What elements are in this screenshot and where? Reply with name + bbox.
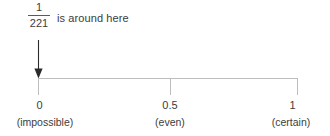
axis-label-certain: 1 (certain): [252, 100, 330, 128]
axis-sublabel-certain: (certain): [252, 117, 330, 128]
annotation-caption: is around here: [57, 12, 129, 24]
fraction-numerator: 1: [26, 2, 52, 15]
number-line-axis: [38, 78, 297, 79]
axis-label-impossible: 0 (impossible): [0, 100, 90, 128]
fraction-one-over-221: 1 221: [26, 2, 52, 29]
down-arrow-icon: [34, 40, 43, 79]
probability-number-line-figure: 1 221 is around here 0 (impossible) 0.5 …: [0, 0, 330, 136]
axis-label-value-1: 1: [252, 100, 330, 111]
axis-tick-0: [38, 78, 39, 95]
axis-label-even: 0.5 (even): [125, 100, 215, 128]
axis-label-value-half: 0.5: [125, 100, 215, 111]
axis-label-value-0: 0: [0, 100, 90, 111]
axis-tick-0.5: [170, 78, 171, 95]
axis-sublabel-even: (even): [125, 117, 215, 128]
axis-tick-1: [297, 78, 298, 95]
fraction-denominator: 221: [26, 16, 52, 29]
axis-sublabel-impossible: (impossible): [0, 117, 90, 128]
